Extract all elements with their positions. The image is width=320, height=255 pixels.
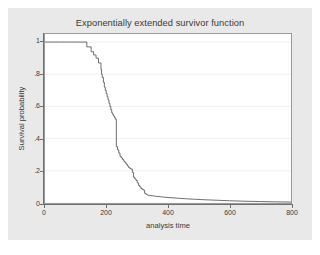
plot-inner <box>45 34 291 203</box>
series-group <box>45 42 291 202</box>
chart-title: Exponentially extended survivor function <box>8 18 312 28</box>
x-axis-line <box>44 204 293 205</box>
graph-region: Exponentially extended survivor function… <box>8 8 312 240</box>
plot-area <box>44 33 292 204</box>
chart-page: Exponentially extended survivor function… <box>0 0 320 255</box>
x-tick-label: 400 <box>162 209 174 217</box>
x-axis-title: analysis time <box>44 221 292 230</box>
survivor-function-plot <box>45 34 291 203</box>
x-tick-label: 0 <box>42 209 46 217</box>
x-tick-label: 600 <box>224 209 236 217</box>
x-tick-label: 200 <box>100 209 112 217</box>
series-line <box>45 42 291 202</box>
x-axis-tick-labels: 0200400600800 <box>44 209 292 219</box>
x-tick-label: 800 <box>286 209 298 217</box>
gridlines <box>45 42 291 203</box>
